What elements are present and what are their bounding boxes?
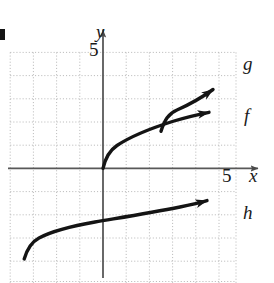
curve-h <box>24 201 207 259</box>
x-tick-label-5: 5 <box>222 166 232 185</box>
x-axis-label: x <box>249 166 257 185</box>
curve-label-g: g <box>243 54 253 73</box>
y-tick-label-5: 5 <box>89 40 99 59</box>
coordinate-plane <box>0 0 274 283</box>
graph-figure: y x 5 5 g f h <box>0 0 274 283</box>
curve-label-f: f <box>244 106 249 125</box>
curve-f <box>103 112 209 168</box>
curve-label-h: h <box>243 203 253 222</box>
axis-lines <box>8 30 258 278</box>
curve-g <box>161 90 213 132</box>
